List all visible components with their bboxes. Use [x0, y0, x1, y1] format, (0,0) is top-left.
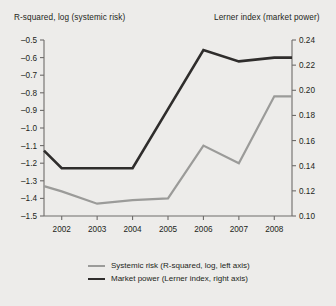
svg-text:–0.5: –0.5: [21, 36, 37, 45]
svg-text:2008: 2008: [265, 225, 284, 234]
svg-text:–0.8: –0.8: [21, 89, 37, 98]
svg-text:0.20: 0.20: [299, 86, 315, 95]
svg-text:–1.0: –1.0: [21, 124, 37, 133]
svg-text:0.18: 0.18: [299, 111, 315, 120]
right-axis-ticks: 0.240.220.200.180.160.140.120.10: [292, 36, 315, 221]
svg-text:2004: 2004: [123, 225, 142, 234]
svg-text:–0.9: –0.9: [21, 106, 37, 115]
svg-text:–0.6: –0.6: [21, 54, 37, 63]
legend-label-market-power: Market power (Lerner index, right axis): [111, 274, 248, 283]
svg-text:0.10: 0.10: [299, 212, 315, 221]
legend-item-market-power: Market power (Lerner index, right axis): [88, 272, 250, 285]
legend-swatch-market-power: [88, 278, 105, 280]
svg-text:0.14: 0.14: [299, 162, 315, 171]
svg-text:2006: 2006: [194, 225, 213, 234]
svg-text:–1.2: –1.2: [21, 159, 37, 168]
svg-text:–1.4: –1.4: [21, 194, 37, 203]
legend-item-systemic-risk: Systemic risk (R-squared, log, left axis…: [88, 259, 250, 272]
legend-label-systemic-risk: Systemic risk (R-squared, log, left axis…: [111, 261, 250, 270]
svg-text:–1.3: –1.3: [21, 177, 37, 186]
svg-text:2007: 2007: [230, 225, 249, 234]
svg-text:0.16: 0.16: [299, 137, 315, 146]
axis-frame: [44, 40, 292, 216]
legend-swatch-systemic-risk: [88, 265, 105, 267]
svg-text:2003: 2003: [88, 225, 107, 234]
series-lines: [44, 50, 292, 204]
svg-text:0.12: 0.12: [299, 187, 315, 196]
svg-text:–1.5: –1.5: [21, 212, 37, 221]
left-axis-ticks: –0.5–0.6–0.7–0.8–0.9–1.0–1.1–1.2–1.3–1.4…: [21, 36, 44, 221]
chart-legend: Systemic risk (R-squared, log, left axis…: [88, 259, 250, 285]
chart-container: R-squared, log (systemic risk) Lerner in…: [0, 0, 336, 306]
svg-text:2005: 2005: [159, 225, 178, 234]
svg-text:0.24: 0.24: [299, 36, 315, 45]
svg-text:–0.7: –0.7: [21, 71, 37, 80]
svg-text:0.22: 0.22: [299, 61, 315, 70]
svg-text:2002: 2002: [53, 225, 72, 234]
svg-text:–1.1: –1.1: [21, 142, 37, 151]
x-axis-ticks: 2002200320042005200620072008: [53, 216, 284, 234]
